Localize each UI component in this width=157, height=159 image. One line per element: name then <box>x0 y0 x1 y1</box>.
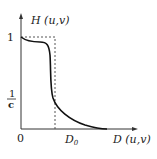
y-tick-fraction-denominator: c <box>8 99 14 110</box>
y-tick-one: 1 <box>7 31 14 44</box>
response-curve <box>21 37 107 129</box>
y-tick-fraction-numerator: 1 <box>9 88 15 99</box>
filter-response-diagram: H (u,v) 1 1 c 0 D0 D (u,v) <box>0 0 157 159</box>
x-axis-arrow-icon <box>132 127 138 131</box>
y-axis-arrow-icon <box>19 13 23 19</box>
y-axis-label: H (u,v) <box>30 14 69 27</box>
cutoff-label: D0 <box>64 133 79 147</box>
x-axis-label: D (u,v) <box>112 133 151 146</box>
origin-label: 0 <box>17 132 24 145</box>
